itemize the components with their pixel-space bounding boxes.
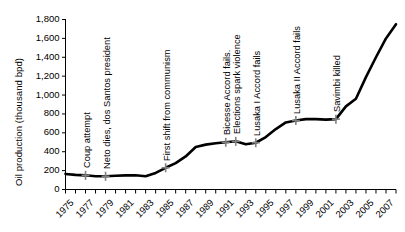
annotation-label-neto-dies: Neto dies, dos Santos president bbox=[102, 37, 112, 169]
annotation-marker-bicesse-accord-fails bbox=[222, 138, 230, 147]
y-axis-tick-label: 1,000 bbox=[24, 89, 60, 100]
annotation-label-bicesse-accord-fails: Bicesse Accord fails. bbox=[222, 50, 232, 135]
chart-canvas bbox=[0, 0, 405, 232]
y-axis-tick-label: 0 bbox=[24, 183, 60, 194]
annotation-label-lusaka-ii-accord-fails: Lusaka II Accord fails bbox=[292, 26, 302, 114]
annotation-label-lusaka-i-accord-fails: Lusaka I Accord fails bbox=[252, 50, 262, 135]
annotation-label-coup-attempt: Coup attempt bbox=[82, 113, 92, 169]
y-axis-ticks bbox=[62, 20, 66, 190]
y-axis-title: Oil production (thousand bpd) bbox=[13, 58, 24, 186]
y-axis-tick-label: 800 bbox=[24, 107, 60, 118]
y-axis-tick-label: 600 bbox=[24, 126, 60, 137]
oil-production-line-chart: Oil production (thousand bpd) 0200400600… bbox=[0, 0, 405, 232]
y-axis-tick-label: 1,800 bbox=[24, 13, 60, 24]
annotation-marker-elections-spark-violence bbox=[232, 137, 240, 146]
x-axis-ticks bbox=[66, 190, 397, 194]
annotation-label-elections-spark-violence: Elections spark violence bbox=[232, 35, 242, 135]
annotation-marker-first-shift-communism bbox=[162, 163, 170, 172]
annotation-marker-coup-attempt bbox=[82, 171, 90, 180]
y-axis-tick-label: 200 bbox=[24, 164, 60, 175]
annotation-label-savimbi-killed: Savimbi killed bbox=[332, 55, 342, 112]
annotation-marker-lusaka-i-accord-fails bbox=[252, 138, 260, 147]
annotation-label-first-shift-communism: First shift from communism bbox=[162, 49, 172, 161]
annotation-markers bbox=[82, 115, 340, 181]
annotation-marker-lusaka-ii-accord-fails bbox=[292, 116, 300, 125]
y-axis-tick-label: 1,600 bbox=[24, 32, 60, 43]
annotation-marker-neto-dies bbox=[102, 172, 110, 181]
y-axis-tick-label: 1,200 bbox=[24, 70, 60, 81]
y-axis-tick-label: 400 bbox=[24, 145, 60, 156]
y-axis-tick-label: 1,400 bbox=[24, 51, 60, 62]
